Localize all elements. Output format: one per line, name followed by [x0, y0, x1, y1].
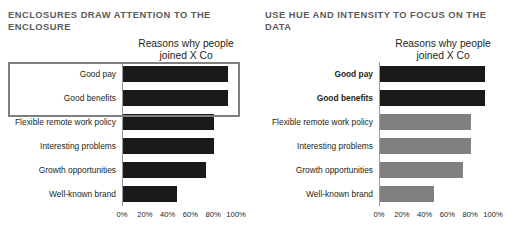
chart-right-plot: Good payGood benefitsFlexible remote wor… — [257, 62, 514, 206]
bar-row: Well-known brand — [0, 182, 257, 206]
bar — [123, 162, 206, 178]
chart-right-subtitle-line2: joined X Co — [416, 50, 469, 61]
panel-left-title: ENCLOSURES DRAW ATTENTION TO THE ENCLOSU… — [8, 9, 248, 33]
bar-row: Interesting problems — [0, 134, 257, 158]
chart-right-x-axis: 0%20%40%60%80%100% — [379, 210, 499, 222]
bar-label: Good pay — [257, 62, 373, 86]
bar-label: Interesting problems — [257, 134, 373, 158]
bar — [380, 66, 485, 82]
x-axis-tick-label: 100% — [226, 210, 245, 219]
panel-left: ENCLOSURES DRAW ATTENTION TO THE ENCLOSU… — [0, 0, 257, 230]
bar-label: Good benefits — [0, 86, 116, 110]
bar-row: Interesting problems — [257, 134, 514, 158]
bar-row: Good benefits — [0, 86, 257, 110]
bar-row: Flexible remote work policy — [257, 110, 514, 134]
x-axis-tick-label: 80% — [463, 210, 478, 219]
bar-row: Growth opportunities — [257, 158, 514, 182]
bar — [380, 138, 471, 154]
bar — [123, 90, 228, 106]
x-axis-tick-label: 60% — [183, 210, 198, 219]
chart-left-x-axis: 0%20%40%60%80%100% — [122, 210, 242, 222]
chart-left: Reasons why people joined X Co Good payG… — [0, 38, 257, 228]
x-axis-tick-label: 0% — [117, 210, 128, 219]
slide-canvas: ENCLOSURES DRAW ATTENTION TO THE ENCLOSU… — [0, 0, 514, 230]
chart-left-subtitle-line1: Reasons why people — [138, 38, 234, 49]
bar — [380, 114, 471, 130]
chart-left-subtitle: Reasons why people joined X Co — [122, 38, 250, 62]
bar — [123, 186, 177, 202]
bar-label: Flexible remote work policy — [257, 110, 373, 134]
x-axis-tick-label: 20% — [394, 210, 409, 219]
bar-label: Flexible remote work policy — [0, 110, 116, 134]
bar — [380, 186, 434, 202]
x-axis-tick-label: 40% — [160, 210, 175, 219]
x-axis-tick-label: 80% — [206, 210, 221, 219]
x-axis-tick-label: 0% — [374, 210, 385, 219]
bar-row: Well-known brand — [257, 182, 514, 206]
bar-row: Flexible remote work policy — [0, 110, 257, 134]
bar-label: Interesting problems — [0, 134, 116, 158]
bar — [123, 138, 214, 154]
chart-right: Reasons why people joined X Co Good payG… — [257, 38, 514, 228]
x-axis-tick-label: 60% — [440, 210, 455, 219]
panel-right-title: USE HUE AND INTENSITY TO FOCUS ON THE DA… — [265, 9, 505, 33]
x-axis-tick-label: 100% — [483, 210, 502, 219]
bar-label: Growth opportunities — [0, 158, 116, 182]
bar-row: Good pay — [257, 62, 514, 86]
panel-right: USE HUE AND INTENSITY TO FOCUS ON THE DA… — [257, 0, 514, 230]
bar-label: Well-known brand — [0, 182, 116, 206]
chart-right-subtitle-line1: Reasons why people — [395, 38, 491, 49]
bar-label: Well-known brand — [257, 182, 373, 206]
bar-row: Good benefits — [257, 86, 514, 110]
bar — [380, 90, 485, 106]
bar-row: Good pay — [0, 62, 257, 86]
bar-label: Growth opportunities — [257, 158, 373, 182]
bar — [123, 66, 228, 82]
x-axis-tick-label: 40% — [417, 210, 432, 219]
bar-label: Good pay — [0, 62, 116, 86]
bar — [380, 162, 463, 178]
bar-label: Good benefits — [257, 86, 373, 110]
bar — [123, 114, 214, 130]
chart-left-plot: Good payGood benefitsFlexible remote wor… — [0, 62, 257, 206]
chart-left-subtitle-line2: joined X Co — [159, 50, 212, 61]
chart-right-subtitle: Reasons why people joined X Co — [379, 38, 507, 62]
x-axis-tick-label: 20% — [137, 210, 152, 219]
bar-row: Growth opportunities — [0, 158, 257, 182]
